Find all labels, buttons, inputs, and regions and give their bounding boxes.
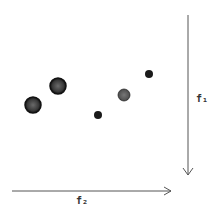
axis-label-f1: f₁	[196, 93, 208, 104]
data-point	[145, 70, 153, 78]
data-points	[25, 70, 153, 119]
data-point	[25, 97, 41, 113]
data-point	[50, 78, 66, 94]
horizontal-axis-f2: f₂	[12, 187, 171, 206]
data-point	[94, 111, 102, 119]
data-point	[118, 89, 130, 101]
feature-space-diagram: f₁ f₂	[0, 0, 214, 218]
axis-label-f2: f₂	[76, 195, 88, 206]
vertical-axis-f1: f₁	[183, 15, 208, 175]
